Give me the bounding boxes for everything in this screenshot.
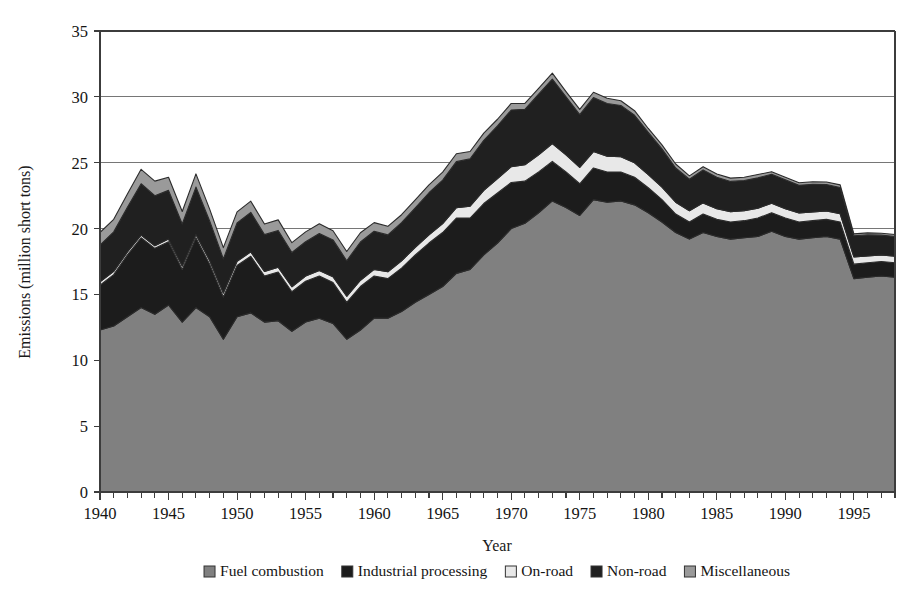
x-tick-label-1980: 1980: [632, 504, 665, 523]
y-tick-label-5: 5: [80, 417, 88, 436]
y-tick-label-10: 10: [72, 351, 89, 370]
x-tick-label-1965: 1965: [426, 504, 459, 523]
y-tick-label-15: 15: [72, 285, 89, 304]
y-tick-label-20: 20: [72, 220, 89, 239]
legend-swatch-non-road: [591, 566, 602, 577]
legend-label: On-road: [521, 562, 573, 579]
x-tick-label-1940: 1940: [84, 504, 117, 523]
x-tick-label-1960: 1960: [358, 504, 391, 523]
legend-swatch-industrial-processing: [342, 566, 353, 577]
legend-label: Miscellaneous: [700, 562, 790, 579]
x-tick-label-1995: 1995: [837, 504, 870, 523]
legend-label: Non-road: [607, 562, 667, 579]
legend-item-fuel-combustion[interactable]: Fuel combustion: [204, 562, 324, 579]
y-tick-label-25: 25: [72, 154, 89, 173]
x-tick-label-1945: 1945: [152, 504, 185, 523]
y-tick-label-35: 35: [72, 22, 89, 41]
x-tick-label-1985: 1985: [700, 504, 733, 523]
legend-swatch-on-road: [505, 566, 516, 577]
x-tick-label-1990: 1990: [769, 504, 802, 523]
y-tick-label-0: 0: [80, 483, 88, 502]
legend-item-miscellaneous[interactable]: Miscellaneous: [684, 562, 790, 579]
x-axis-title: Year: [482, 537, 512, 554]
x-tick-label-1970: 1970: [495, 504, 528, 523]
legend-swatch-miscellaneous: [684, 566, 695, 577]
x-tick-label-1955: 1955: [289, 504, 322, 523]
x-tick-label-1975: 1975: [563, 504, 596, 523]
x-tick-label-1950: 1950: [221, 504, 254, 523]
y-tick-label-30: 30: [72, 88, 89, 107]
legend-label: Fuel combustion: [220, 562, 324, 579]
legend-label: Industrial processing: [358, 562, 488, 579]
emissions-stacked-area-chart: 05101520253035 1940194519501955196019651…: [0, 0, 913, 616]
legend-item-industrial-processing[interactable]: Industrial processing: [342, 562, 488, 579]
y-axis-title: Emissions (million short tons): [16, 165, 34, 358]
legend-swatch-fuel-combustion: [204, 566, 215, 577]
